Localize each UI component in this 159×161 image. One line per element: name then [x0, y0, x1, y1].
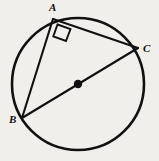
chord-ac-line	[53, 19, 138, 48]
geometry-canvas	[0, 0, 159, 161]
vertex-label-c: C	[143, 43, 150, 54]
circle-center-dot	[74, 80, 82, 88]
right-angle-marker-icon	[53, 25, 70, 42]
geometry-figure: A C B	[0, 0, 159, 161]
vertex-label-a: A	[49, 2, 56, 13]
vertex-label-b: B	[9, 114, 16, 125]
